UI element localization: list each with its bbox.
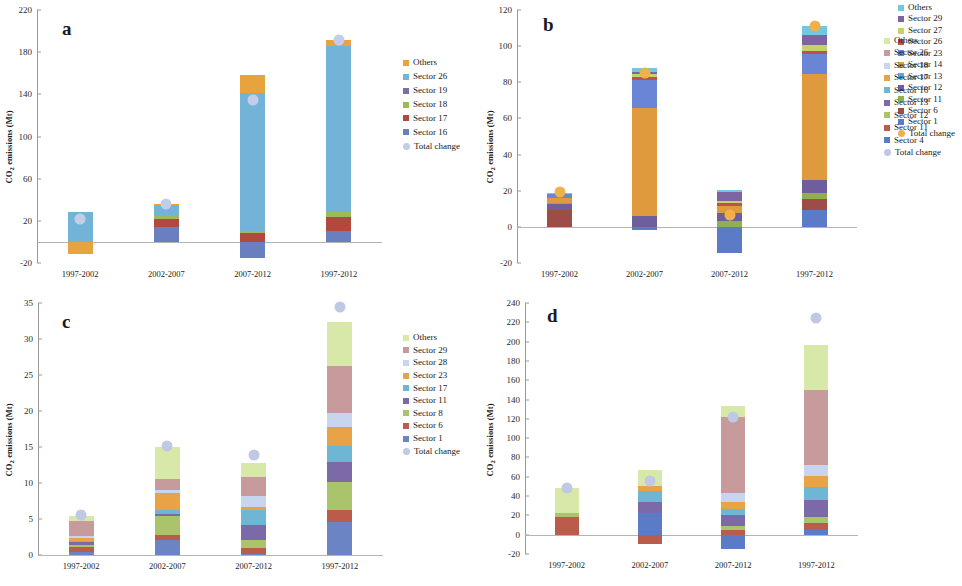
legend-item[interactable]: Sector 29 [898, 14, 955, 23]
bar-segment [721, 509, 745, 516]
legend-item[interactable]: Others [403, 333, 460, 342]
legend-item[interactable]: Sector 13 [884, 98, 941, 107]
stacked-bar [240, 10, 265, 263]
legend-item[interactable]: Sector 16 [403, 128, 460, 137]
legend-item[interactable]: Sector 12 [884, 111, 941, 120]
y-axis-line [38, 303, 39, 555]
legend-label: Sector 11 [413, 396, 447, 405]
bar-segment [804, 529, 828, 535]
legend-item[interactable]: Sector 23 [403, 371, 460, 380]
legend-swatch-icon [884, 100, 890, 106]
legend-item[interactable]: Sector 6 [403, 421, 460, 430]
y-axis-tick-label: 60 [23, 174, 37, 184]
y-axis-tick-mark [517, 190, 521, 191]
legend-item[interactable]: Sector 26 [884, 48, 941, 57]
legend-item[interactable]: Sector 19 [403, 86, 460, 95]
legend-swatch-icon [403, 143, 410, 150]
y-axis-tick-label: 140 [507, 395, 526, 405]
bar-segment [240, 242, 265, 258]
legend-label: Others [413, 58, 437, 67]
bar-segment [638, 491, 662, 502]
legend-item[interactable]: Sector 17 [403, 114, 460, 123]
y-axis-tick-label: -20 [20, 258, 37, 268]
legend-swatch-icon [403, 88, 409, 94]
legend-item[interactable]: Sector 11 [884, 123, 941, 132]
y-axis-tick-mark [525, 380, 529, 381]
x-axis-tick-label: 1997-2012 [798, 560, 835, 570]
legend-item[interactable]: Sector 18 [403, 100, 460, 109]
y-axis-tick-mark [525, 303, 529, 304]
y-axis-tick-label: 10 [24, 478, 38, 488]
legend-item[interactable]: Sector 1 [403, 434, 460, 443]
bar-segment [638, 502, 662, 514]
y-axis-tick-label: 140 [19, 89, 38, 99]
legend-label: Sector 23 [413, 371, 447, 380]
legend-item[interactable]: Sector 18 [884, 61, 941, 70]
legend-item[interactable]: Sector 17 [884, 73, 941, 82]
legend-label: Sector 17 [413, 384, 447, 393]
stacked-bar [68, 10, 93, 263]
legend-label: Total change [895, 148, 941, 157]
bar-segment [721, 526, 745, 530]
bar-segment [327, 522, 352, 555]
legend-item[interactable]: Sector 27 [898, 26, 955, 35]
bar-segment [717, 227, 742, 253]
total-change-marker [811, 313, 822, 324]
legend-item[interactable]: Others [403, 58, 460, 67]
bar-segment [69, 536, 94, 539]
legend-label: Total change [414, 142, 460, 151]
bar-segment [804, 465, 828, 476]
legend-label: Sector 28 [413, 358, 447, 367]
legend-item[interactable]: Total change [884, 148, 941, 157]
y-axis-tick-mark [517, 82, 521, 83]
legend-swatch-icon [884, 38, 890, 44]
bar-segment [68, 242, 93, 254]
legend-item[interactable]: Sector 8 [403, 409, 460, 418]
bar-segment [638, 486, 662, 491]
y-axis-title: CO2 emissions (Mt) [483, 293, 499, 586]
legend-swatch-icon [403, 436, 409, 442]
y-axis-tick-mark [38, 411, 42, 412]
total-change-marker [247, 94, 258, 105]
stacked-bar [717, 10, 742, 263]
legend-item[interactable]: Sector 16 [884, 86, 941, 95]
bar-segment [154, 219, 179, 227]
legend-label: Sector 13 [894, 98, 928, 107]
bar-segment [69, 545, 94, 548]
y-axis-tick-mark [37, 10, 41, 11]
y-axis-tick-mark [38, 447, 42, 448]
bar-segment [69, 541, 94, 543]
legend-item[interactable]: Total change [403, 142, 460, 151]
x-axis-tick-label: 2002-2007 [626, 269, 663, 279]
bar-segment [721, 535, 745, 549]
legend-item[interactable]: Sector 17 [403, 384, 460, 393]
legend-item[interactable]: Sector 29 [403, 346, 460, 355]
legend-item[interactable]: Sector 11 [403, 396, 460, 405]
legend-item[interactable]: Sector 26 [403, 72, 460, 81]
legend-item[interactable]: Sector 4 [884, 136, 941, 145]
bar-segment [802, 51, 827, 55]
legend-item[interactable]: Total change [403, 447, 460, 456]
legend-item[interactable]: Others [898, 3, 955, 12]
bar-segment [717, 221, 742, 226]
bar-segment [241, 540, 266, 548]
bar-segment [802, 74, 827, 180]
panel-a: CO2 emissions (Mt)-202060100140180220199… [0, 0, 481, 293]
legend-swatch-icon [403, 448, 410, 455]
bar-segment [240, 231, 265, 233]
legend-swatch-icon [403, 60, 409, 66]
y-axis-tick-label: 0 [508, 222, 518, 232]
bar-segment [638, 513, 662, 534]
y-axis-tick-mark [525, 341, 529, 342]
y-axis-tick-mark [38, 483, 42, 484]
total-change-marker [334, 301, 345, 312]
bar-segment [240, 233, 265, 242]
legend-item[interactable]: Sector 28 [403, 358, 460, 367]
panel-label: a [62, 18, 72, 40]
bar-segment [154, 215, 179, 219]
bar-segment [804, 523, 828, 529]
stacked-bar [154, 10, 179, 263]
legend-item[interactable]: Others [884, 36, 941, 45]
legend-label: Sector 26 [413, 72, 447, 81]
legend-label: Sector 29 [908, 14, 942, 23]
